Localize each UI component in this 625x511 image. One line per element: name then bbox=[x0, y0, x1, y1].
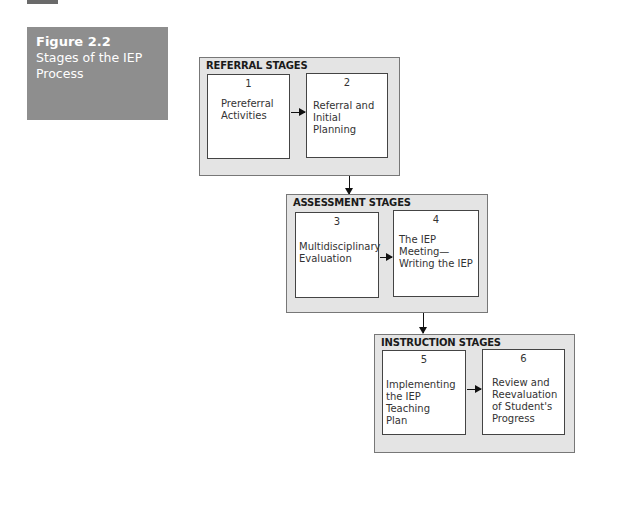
stage-text-line: The IEP bbox=[399, 234, 476, 246]
stage-text-line: the IEP Teaching bbox=[386, 391, 463, 415]
stage-text-line: of Student's bbox=[492, 401, 562, 413]
group-instruction-stages: INSTRUCTION STAGES 5 Implementing the IE… bbox=[374, 334, 575, 453]
page-top-bar bbox=[27, 0, 58, 4]
stage-number: 6 bbox=[483, 353, 564, 365]
stage-3-box: 3 Multidisciplinary Evaluation bbox=[295, 212, 379, 298]
stage-text-line: Activities bbox=[221, 110, 287, 122]
stage-text: Multidisciplinary Evaluation bbox=[299, 241, 376, 265]
stage-2-box: 2 Referral and Initial Planning bbox=[306, 73, 388, 158]
stage-text-line: Multidisciplinary bbox=[299, 241, 376, 253]
stage-text-line: Prereferral bbox=[221, 98, 287, 110]
stage-text: Referral and Initial Planning bbox=[313, 100, 385, 136]
arrow-down-icon bbox=[349, 176, 350, 194]
stage-text-line: Reevaluation bbox=[492, 389, 562, 401]
stage-text: Implementing the IEP Teaching Plan bbox=[386, 379, 463, 427]
group-title: REFERRAL STAGES bbox=[206, 60, 307, 71]
arrow-right-icon bbox=[467, 389, 481, 390]
figure-title-line-2: Process bbox=[36, 66, 159, 82]
stage-text-line: Implementing bbox=[386, 379, 463, 391]
stage-1-box: 1 Prereferral Activities bbox=[207, 74, 290, 159]
stage-text-line: Initial Planning bbox=[313, 112, 385, 136]
stage-text-line: Writing the IEP bbox=[399, 258, 476, 270]
stage-text-line: Meeting— bbox=[399, 246, 476, 258]
stage-text: Prereferral Activities bbox=[221, 98, 287, 122]
stage-6-box: 6 Review and Reevaluation of Student's P… bbox=[482, 349, 565, 435]
stage-number: 3 bbox=[296, 216, 378, 228]
stage-number: 1 bbox=[208, 78, 289, 90]
figure-title-line-1: Stages of the IEP bbox=[36, 50, 159, 66]
stage-5-box: 5 Implementing the IEP Teaching Plan bbox=[382, 350, 466, 435]
stage-text-line: Evaluation bbox=[299, 253, 376, 265]
stage-text-line: Referral and bbox=[313, 100, 385, 112]
stage-number: 4 bbox=[394, 214, 478, 226]
arrow-right-icon bbox=[291, 112, 305, 113]
group-assessment-stages: ASSESSMENT STAGES 3 Multidisciplinary Ev… bbox=[286, 194, 488, 313]
figure-caption-box: Figure 2.2 Stages of the IEP Process bbox=[27, 27, 168, 120]
stage-text: The IEP Meeting— Writing the IEP bbox=[399, 234, 476, 270]
arrow-right-icon bbox=[380, 257, 392, 258]
group-title: ASSESSMENT STAGES bbox=[293, 197, 411, 208]
stage-text-line: Review and bbox=[492, 377, 562, 389]
stage-text-line: Progress bbox=[492, 413, 562, 425]
figure-number: Figure 2.2 bbox=[36, 34, 159, 50]
group-referral-stages: REFERRAL STAGES 1 Prereferral Activities… bbox=[199, 57, 400, 176]
stage-4-box: 4 The IEP Meeting— Writing the IEP bbox=[393, 210, 479, 297]
group-title: INSTRUCTION STAGES bbox=[381, 337, 501, 348]
stage-text-line: Plan bbox=[386, 415, 463, 427]
arrow-down-icon bbox=[423, 313, 424, 333]
stage-text: Review and Reevaluation of Student's Pro… bbox=[492, 377, 562, 425]
stage-number: 2 bbox=[307, 77, 387, 89]
stage-number: 5 bbox=[383, 354, 465, 366]
